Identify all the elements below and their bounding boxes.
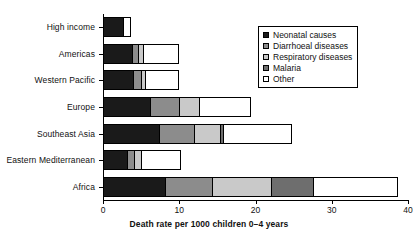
legend-label: Diarrhoeal diseases — [273, 42, 348, 51]
bar-segment — [103, 70, 134, 90]
bar-row — [103, 177, 408, 197]
bar-segment — [165, 177, 213, 197]
x-axis-tick — [332, 200, 333, 204]
bar-segment — [313, 177, 397, 197]
legend-label: Malaria — [273, 64, 301, 73]
bar-row — [103, 70, 408, 90]
bar-segment — [103, 17, 124, 37]
stacked-bar — [103, 17, 131, 37]
x-axis-tick — [179, 200, 180, 204]
legend-swatch-icon — [263, 54, 269, 60]
bar-row — [103, 150, 408, 170]
stacked-bar — [103, 70, 179, 90]
category-label: Americas — [0, 49, 95, 59]
category-tick — [99, 187, 103, 188]
bar-segment — [179, 97, 200, 117]
bar-segment — [103, 124, 160, 144]
bar-segment — [194, 124, 222, 144]
stacked-bar — [103, 97, 251, 117]
category-label: Africa — [0, 182, 95, 192]
x-axis-tick-label: 10 — [175, 205, 184, 215]
legend-label: Neonatal causes — [273, 31, 336, 40]
x-axis-tick-label: 30 — [327, 205, 336, 215]
x-axis-tick-label: 40 — [403, 205, 412, 215]
category-tick — [99, 107, 103, 108]
plot-area — [103, 14, 408, 200]
bar-row — [103, 44, 408, 64]
bar-segment — [103, 44, 133, 64]
legend-item: Neonatal causes — [263, 30, 352, 40]
bar-segment — [223, 124, 292, 144]
category-tick — [99, 54, 103, 55]
stacked-bar — [103, 150, 181, 170]
category-tick — [99, 160, 103, 161]
category-label: High income — [0, 22, 95, 32]
x-axis-tick-label: 20 — [251, 205, 260, 215]
category-axis-labels: High incomeAmericasWestern PacificEurope… — [0, 14, 99, 200]
x-axis-title: Death rate per 1000 children 0–4 years — [0, 219, 418, 229]
bar-segment — [103, 97, 151, 117]
stacked-bar — [103, 124, 292, 144]
legend-swatch-icon — [263, 32, 269, 38]
category-tick — [99, 134, 103, 135]
legend-swatch-icon — [263, 65, 269, 71]
stacked-bar-chart: High incomeAmericasWestern PacificEurope… — [0, 0, 418, 235]
bar-segment — [199, 97, 251, 117]
legend-label: Respiratory diseases — [273, 53, 352, 62]
x-axis-tick-label: 0 — [101, 205, 106, 215]
legend-item: Malaria — [263, 63, 352, 73]
category-label: Europe — [0, 102, 95, 112]
bar-segment — [123, 17, 131, 37]
legend-item: Other — [263, 74, 352, 84]
category-tick — [99, 27, 103, 28]
legend-swatch-icon — [263, 43, 269, 49]
legend-swatch-icon — [263, 76, 269, 82]
category-label: Eastern Mediterranean — [0, 155, 95, 165]
legend-label: Other — [273, 75, 294, 84]
bar-row — [103, 124, 408, 144]
bar-segment — [103, 177, 166, 197]
category-label: Southeast Asia — [0, 129, 95, 139]
bar-segment — [143, 44, 178, 64]
x-axis-tick — [256, 200, 257, 204]
x-axis-tick — [408, 200, 409, 204]
category-tick — [99, 80, 103, 81]
bar-segment — [145, 70, 179, 90]
bar-segment — [103, 150, 128, 170]
bar-segment — [212, 177, 272, 197]
legend-item: Diarrhoeal diseases — [263, 41, 352, 51]
bar-segment — [150, 97, 180, 117]
legend-item: Respiratory diseases — [263, 52, 352, 62]
chart-legend: Neonatal causesDiarrhoeal diseasesRespir… — [258, 26, 358, 88]
stacked-bar — [103, 44, 179, 64]
bar-segment — [159, 124, 195, 144]
bar-row — [103, 17, 408, 37]
bar-segment — [141, 150, 181, 170]
bar-segment — [271, 177, 314, 197]
x-axis-tick — [103, 200, 104, 204]
bar-row — [103, 97, 408, 117]
stacked-bar — [103, 177, 398, 197]
category-label: Western Pacific — [0, 75, 95, 85]
